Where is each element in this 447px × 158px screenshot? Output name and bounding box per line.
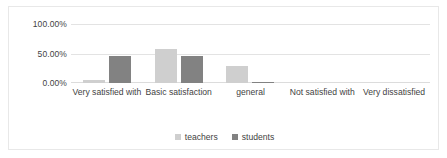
x-axis-label-3: Not satisfied with	[286, 87, 358, 99]
bars-layer	[71, 24, 430, 83]
y-axis-tick-100: 100.00%	[13, 20, 67, 29]
legend-entry-students[interactable]: students	[232, 133, 275, 142]
chart-legend: teachers students	[9, 133, 440, 142]
bar-group-very-dissatisfied	[358, 24, 430, 83]
x-axis-label-4: Very dissatisfied	[358, 87, 430, 99]
bar-group-general	[215, 24, 287, 83]
chart-container: 100.00% 50.00% 0.00%	[8, 6, 439, 150]
bar-group-basic-satisfaction	[143, 24, 215, 83]
bar-group-not-satisfied-with	[286, 24, 358, 83]
y-axis-tick-0: 0.00%	[13, 79, 67, 88]
bar-students-0[interactable]	[109, 56, 131, 83]
bar-teachers-2[interactable]	[226, 66, 248, 83]
bar-teachers-0[interactable]	[83, 80, 105, 83]
plot-area	[71, 24, 430, 83]
x-axis-label-2: general	[215, 87, 287, 99]
y-axis-tick-50: 50.00%	[13, 50, 67, 59]
legend-swatch-teachers-icon	[175, 134, 181, 140]
legend-label-teachers: teachers	[185, 133, 218, 142]
legend-entry-teachers[interactable]: teachers	[175, 133, 218, 142]
y-axis: 100.00% 50.00% 0.00%	[11, 24, 67, 83]
legend-label-students: students	[242, 133, 275, 142]
x-axis-label-1: Basic satisfaction	[143, 87, 215, 99]
bar-group-very-satisfied-with	[71, 24, 143, 83]
bar-students-2[interactable]	[252, 82, 274, 83]
bar-students-1[interactable]	[181, 56, 203, 83]
x-axis-label-0: Very satisfied with	[71, 87, 143, 99]
bar-teachers-1[interactable]	[155, 49, 177, 83]
x-axis: Very satisfied with Basic satisfaction g…	[71, 87, 430, 99]
legend-swatch-students-icon	[232, 134, 238, 140]
